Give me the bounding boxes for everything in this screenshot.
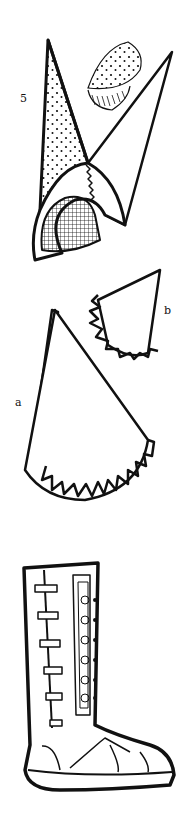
cap-fragment [88,42,141,110]
boot [24,563,174,790]
illustration-canvas: 5 b a [0,0,191,823]
piece-b [90,270,160,359]
